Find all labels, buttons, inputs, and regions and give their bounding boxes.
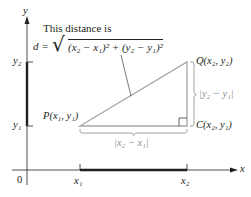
y-axis-label: y [23, 6, 28, 17]
x2-label: x₂ [181, 176, 189, 187]
vertical-side-label: |y₂ − y₁| [199, 89, 234, 100]
formula-leader-line [121, 55, 131, 96]
point-c-label: C(x₂, y₁) [196, 120, 232, 131]
right-angle-mark [179, 118, 187, 126]
y1-label: y₁ [13, 120, 21, 131]
horizontal-brace [80, 129, 187, 136]
origin-label: 0 [17, 175, 22, 186]
formula-lhs: d = [33, 40, 49, 52]
right-triangle [80, 62, 187, 126]
x1-label: x₁ [74, 176, 82, 187]
horizontal-side-label: |x₂ − x₁| [114, 138, 149, 149]
x-axis-label: x [240, 164, 245, 175]
formula-radicand: (x₂ − x₁)² + (y₂ − y₁)² [68, 39, 163, 53]
vertical-brace [190, 62, 197, 126]
radical-sign-icon: √ [52, 34, 65, 54]
point-q-label: Q(x₂, y₂) [196, 56, 232, 67]
point-p-label: P(x₁, y₁) [43, 111, 78, 122]
x-axis-arrow-icon [230, 168, 238, 173]
y-axis-arrow-icon [25, 16, 30, 24]
y2-label: y₂ [13, 56, 21, 67]
